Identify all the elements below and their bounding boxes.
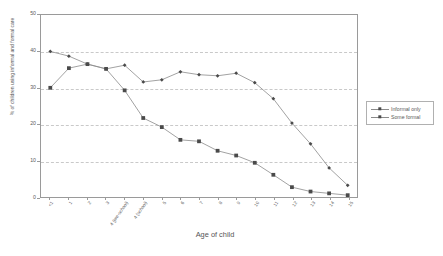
x-tick-label-4: 4 (pre-school) (110, 201, 130, 227)
data-point (197, 73, 201, 77)
x-tick-label-11: 10 (254, 201, 261, 208)
data-point (271, 173, 275, 177)
data-point (216, 149, 220, 153)
data-point (67, 66, 71, 70)
x-tick-label-12: 11 (273, 201, 280, 208)
x-tick-label-7: 6 (181, 201, 186, 206)
x-tick-label-2: 2 (87, 201, 92, 206)
x-tick-label-3: 3 (106, 201, 111, 206)
y-tick-label-0: 0 (33, 195, 36, 200)
y-axis-title: % of children using informal and formal … (10, 0, 15, 147)
y-tick-label-20: 20 (30, 122, 36, 127)
plot-area (40, 14, 358, 198)
data-point (197, 139, 201, 143)
y-tick-label-40: 40 (30, 48, 36, 53)
series-lines (41, 15, 357, 197)
data-point (160, 78, 164, 82)
data-point (234, 71, 238, 75)
data-point (67, 54, 71, 58)
y-tick-label-10: 10 (30, 159, 36, 164)
x-tick-label-1: 1 (69, 201, 74, 206)
data-point (253, 161, 257, 165)
series-line-1 (50, 64, 347, 195)
x-tick-label-15: 14 (329, 201, 336, 208)
x-tick-label-0: <1 (48, 201, 55, 208)
x-tick-label-13: 12 (292, 201, 299, 208)
legend-item-label: Some formal (389, 114, 420, 120)
x-tick-label-9: 8 (218, 201, 223, 206)
data-point (179, 138, 183, 142)
legend-item-some-formal[interactable]: Some formal (371, 113, 430, 121)
data-point (141, 116, 145, 120)
data-point (234, 154, 238, 158)
y-tick-label-50: 50 (30, 11, 36, 16)
data-point (123, 88, 127, 92)
data-point (327, 191, 331, 195)
x-tick-label-10: 9 (237, 201, 242, 206)
x-tick-label-6: 5 (162, 201, 167, 206)
x-tick-label-8: 7 (200, 201, 205, 206)
x-axis-tick-labels: <11234 (pre-school)4 (school)56789101112… (40, 201, 358, 247)
data-point (48, 50, 52, 54)
data-point (309, 190, 313, 194)
x-tick-label-16: 15 (348, 201, 355, 208)
data-point (48, 86, 52, 90)
data-point (216, 74, 220, 78)
y-tick-label-30: 30 (30, 85, 36, 90)
legend-item-label: Informal only (389, 106, 421, 112)
diamond-marker-icon (371, 105, 389, 113)
x-axis-title: Age of child (150, 230, 280, 239)
data-point (160, 125, 164, 129)
chart-legend: Informal only Some formal (366, 101, 434, 125)
data-point (179, 70, 183, 74)
data-point (290, 185, 294, 189)
square-marker-icon (371, 113, 389, 121)
x-tick-label-5: 4 (school) (133, 201, 148, 220)
legend-item-informal-only[interactable]: Informal only (371, 105, 430, 113)
chart-figure: 01020304050 % of children using informal… (0, 0, 443, 256)
x-tick-label-14: 13 (310, 201, 317, 208)
series-line-0 (50, 51, 347, 185)
y-axis-tick-labels: 01020304050 (22, 14, 36, 198)
data-point (104, 67, 108, 71)
data-point (86, 62, 90, 66)
